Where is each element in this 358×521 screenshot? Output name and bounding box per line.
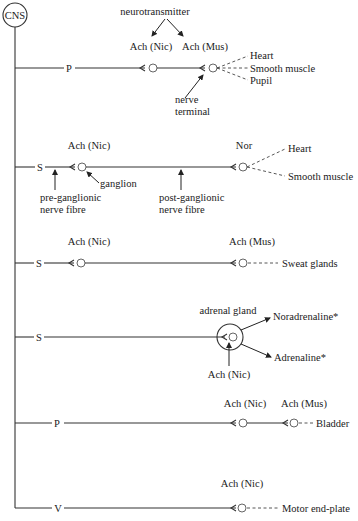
division-label: S [36, 332, 42, 343]
annotation-label: terminal [175, 106, 210, 117]
output-label: Noradrenaline* [273, 311, 338, 322]
target-label: Heart [288, 143, 311, 154]
synapse-label: Ach (Nic) [68, 140, 111, 152]
arrow-icon [167, 19, 183, 36]
synapse-label: Ach (Nic) [224, 398, 267, 410]
synapse-icon [239, 419, 247, 427]
synapse-icon [77, 259, 85, 267]
synapse-label: Ach (Nic) [68, 236, 111, 248]
target-label: Smooth muscle [288, 171, 353, 182]
output-label: Adrenaline* [274, 352, 326, 363]
synapse-icon [229, 333, 237, 341]
division-label: P [54, 418, 60, 429]
synapse-label: Ach (Mus) [229, 236, 275, 248]
synapse-icon [239, 163, 247, 171]
synapse-icon [238, 504, 246, 512]
cns-node: CNS [3, 3, 27, 27]
pre-ganglionic-label: pre-ganglionic [40, 192, 102, 203]
synapse-icon [209, 64, 217, 72]
target-label: Smooth muscle [250, 63, 315, 74]
synapse-label: Ach (Nic) [221, 478, 264, 490]
pathway-somatic: Ach (Nic) V Motor end-plate [15, 478, 350, 514]
adrenal-gland-label: adrenal gland [200, 305, 258, 316]
autonomic-nervous-system-diagram: CNS neurotransmitter Ach (Nic) Ach (Mus)… [0, 0, 358, 521]
target-label: Sweat glands [282, 258, 338, 269]
pathway-sympathetic-1: Ach (Nic) Nor S Heart Smooth muscle gang… [15, 140, 353, 215]
arrow-icon [152, 19, 165, 36]
target-label: Heart [250, 50, 273, 61]
division-label: P [66, 63, 72, 74]
synapse-label: Ach (Mus) [182, 41, 228, 53]
neurotransmitter-label: neurotransmitter [120, 6, 190, 17]
ganglion-label: ganglion [100, 178, 137, 189]
post-ganglionic-label: post-ganglionic [159, 192, 225, 203]
synapse-label: Ach (Nic) [208, 369, 251, 381]
synapse-icon [149, 64, 157, 72]
target-label: Motor end-plate [282, 503, 350, 514]
pathway-sympathetic-adrenal: adrenal gland S Noradrenaline* Adrenalin… [15, 305, 338, 381]
division-label: S [36, 258, 42, 269]
division-label: S [37, 162, 43, 173]
pathway-parasympathetic-1: neurotransmitter Ach (Nic) Ach (Mus) P H… [15, 6, 315, 117]
synapse-label: Ach (Nic) [130, 41, 173, 53]
annotation-label: nerve [175, 94, 199, 105]
arrow-icon [241, 318, 270, 330]
pathway-parasympathetic-2: Ach (Nic) Ach (Mus) P Bladder [15, 398, 350, 429]
synapse-label: Ach (Mus) [281, 398, 327, 410]
synapse-icon [290, 419, 298, 427]
synapse-label: Nor [236, 140, 253, 151]
cns-label: CNS [5, 10, 26, 21]
pathway-sympathetic-2: Ach (Nic) Ach (Mus) S Sweat glands [15, 236, 338, 269]
post-ganglionic-label: nerve fibre [159, 204, 205, 215]
synapse-icon [78, 163, 86, 171]
pre-ganglionic-label: nerve fibre [40, 204, 86, 215]
division-label: V [54, 503, 62, 514]
target-label: Pupil [250, 75, 272, 86]
arrow-icon [87, 172, 99, 183]
arrow-icon [241, 344, 271, 357]
target-label: Bladder [316, 418, 350, 429]
synapse-icon [239, 259, 247, 267]
